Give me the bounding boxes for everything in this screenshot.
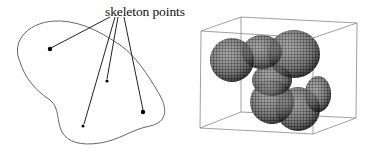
box-edge [313, 23, 357, 38]
left-panel-2d-skeleton: skeleton points [0, 0, 190, 156]
implicit-surface-diagram [190, 0, 373, 156]
box-edge [200, 31, 201, 128]
skeleton-point [141, 110, 145, 114]
skeleton-point [82, 125, 85, 128]
skeleton-points-label: skeleton points [105, 4, 185, 20]
box-edge [241, 17, 357, 23]
leader-line [51, 17, 110, 48]
leader-lines [51, 17, 143, 124]
right-panel-3d-implicit-surface [190, 0, 373, 156]
box-edge [200, 112, 241, 128]
box-edge [356, 23, 357, 118]
blob-lobe-shading [305, 76, 331, 112]
skeleton-figure: skeleton points [0, 0, 373, 156]
skeleton-points [48, 47, 145, 128]
leader-line [124, 17, 143, 110]
box-edge [201, 17, 241, 31]
wireframe-blob-surface [210, 30, 331, 131]
skeleton-point [48, 47, 52, 51]
skeleton-point [106, 80, 109, 83]
leader-line [84, 17, 115, 124]
shape-outline [17, 21, 164, 144]
skeleton-outline-diagram [0, 0, 190, 156]
box-edge [313, 118, 356, 134]
